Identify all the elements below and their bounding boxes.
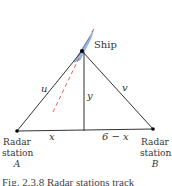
station-b-line1: Radar bbox=[140, 138, 170, 147]
station-b-label: Radar station B bbox=[140, 138, 170, 169]
ship-track-dashed-line bbox=[53, 56, 80, 112]
label-u: u bbox=[41, 84, 47, 94]
station-a-line2: station bbox=[2, 149, 32, 158]
station-a-label: Radar station A bbox=[2, 138, 32, 169]
station-a-line3: A bbox=[2, 160, 32, 169]
baseline bbox=[17, 129, 153, 131]
station-b-line2: station bbox=[140, 149, 170, 158]
figure-caption: Fig. 2.3.8 Radar stations track bbox=[2, 176, 134, 186]
station-b-point bbox=[151, 127, 155, 131]
label-v: v bbox=[122, 83, 128, 93]
label-x: x bbox=[49, 132, 55, 142]
line-u bbox=[17, 51, 82, 131]
label-6-minus-x: 6 − x bbox=[102, 132, 129, 142]
label-y: y bbox=[87, 91, 93, 101]
ship-label: Ship bbox=[94, 40, 117, 50]
radar-ship-diagram: Ship u y v x 6 − x Radar station A Radar… bbox=[0, 0, 172, 186]
station-a-line1: Radar bbox=[2, 138, 32, 147]
station-b-line3: B bbox=[140, 160, 170, 169]
ship-point bbox=[80, 49, 84, 53]
station-a-point bbox=[15, 129, 19, 133]
